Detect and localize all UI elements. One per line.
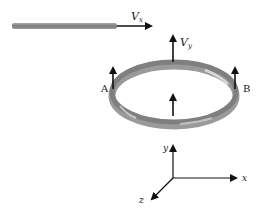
coordinate-axes: y x z [138, 143, 247, 205]
velocity-y-label: Vy [180, 36, 193, 50]
diagram-canvas: Vx Vy A B y x z [0, 0, 261, 216]
z-axis-label: z [138, 195, 144, 205]
velocity-y-arrow: Vy [173, 36, 193, 62]
y-axis-label: y [162, 143, 169, 153]
point-a-label: A [100, 83, 109, 94]
x-axis-label: x [242, 173, 247, 183]
point-b-label: B [243, 83, 250, 94]
velocity-x-label: Vx [131, 10, 143, 24]
z-axis [152, 178, 173, 199]
ring [112, 62, 236, 126]
rod [12, 23, 117, 29]
velocity-x-arrow: Vx [117, 10, 151, 26]
